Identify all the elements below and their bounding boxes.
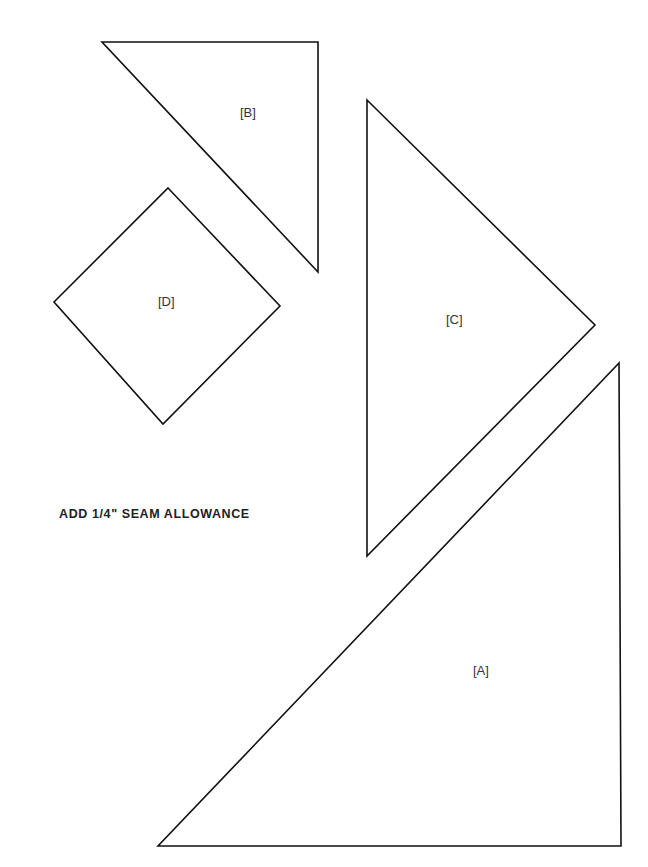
piece-a-label: [A] bbox=[473, 663, 489, 678]
piece-b-outline bbox=[102, 42, 318, 272]
piece-a-outline bbox=[158, 363, 621, 846]
piece-d-label: [D] bbox=[158, 294, 175, 309]
pattern-canvas bbox=[0, 0, 648, 867]
piece-b-label: [B] bbox=[240, 105, 256, 120]
piece-c-label: [C] bbox=[446, 312, 463, 327]
piece-c-outline bbox=[367, 100, 595, 556]
seam-allowance-note: ADD 1/4" SEAM ALLOWANCE bbox=[59, 507, 250, 521]
